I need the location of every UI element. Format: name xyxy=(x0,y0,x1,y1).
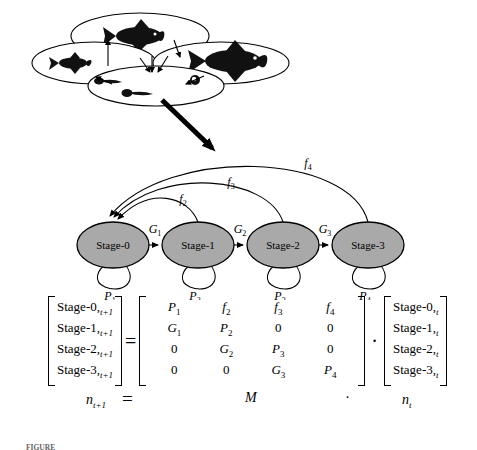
vector-cell: Stage-2,t xyxy=(393,341,438,362)
figure-root: f2 f3 f4 G1 G2 G3 Stage-0 Stage-1 xyxy=(0,0,477,450)
label-matrix-m: M xyxy=(245,390,257,406)
growth-label-g2: G2 xyxy=(234,222,247,238)
equation-row: Stage-0,t+1 Stage-1,t+1 Stage-2,t+1 Stag… xyxy=(0,296,477,386)
fecundity-label-f2: f2 xyxy=(179,192,186,208)
node-label-stage-1: Stage-1 xyxy=(181,239,215,251)
fecundity-label-f4: f4 xyxy=(304,156,311,172)
matrix-cell: G1 xyxy=(148,320,200,341)
matrix-cell: 0 xyxy=(148,341,200,362)
equation-bottom-labels: nt+1 = M · nt xyxy=(0,388,477,416)
node-stage-3[interactable]: Stage-3 xyxy=(332,222,404,268)
vector-cell: Stage-3,t+1 xyxy=(57,362,113,383)
matrix-cell: 0 xyxy=(252,320,304,341)
matrix-cell: P2 xyxy=(200,320,252,341)
subscript: t+1 xyxy=(100,328,113,338)
growth-label-g1: G1 xyxy=(149,222,162,238)
matrix-cell: f2 xyxy=(200,299,252,320)
matrix-row: 0 G2 P3 0 xyxy=(148,341,356,362)
subscript: t xyxy=(436,307,439,317)
matrix-row: G1 P2 0 0 xyxy=(148,320,356,341)
matrix-cell: 0 xyxy=(304,341,356,362)
matrix-cell: P1 xyxy=(148,299,200,320)
fecundity-arc-f4 xyxy=(110,166,368,222)
vector-cell: Stage-3,t xyxy=(393,362,438,383)
vector-cell: Stage-2,t+1 xyxy=(57,341,113,362)
matrix-cell: G3 xyxy=(252,362,304,383)
n-next-vector: Stage-0,t+1 Stage-1,t+1 Stage-2,t+1 Stag… xyxy=(48,296,122,386)
subscript: t xyxy=(436,370,439,380)
matrix-cell: P4 xyxy=(304,362,356,383)
matrix-equation: Stage-0,t+1 Stage-1,t+1 Stage-2,t+1 Stag… xyxy=(0,296,477,450)
matrix-cell: f4 xyxy=(304,299,356,320)
label-equals: = xyxy=(122,388,133,410)
matrix-row: P1 f2 f3 f4 xyxy=(148,299,356,320)
label-n-next: nt+1 xyxy=(86,392,106,410)
figure-caption: FIGURE xyxy=(26,443,466,450)
matrix-cell: 0 xyxy=(304,320,356,341)
node-label-stage-0: Stage-0 xyxy=(96,239,130,251)
equals-sign: = xyxy=(125,330,136,353)
matrix-cell: 0 xyxy=(148,362,200,383)
node-label-stage-2: Stage-2 xyxy=(266,239,300,251)
vector-cell: Stage-1,t+1 xyxy=(57,320,113,341)
vector-cell: Stage-1,t xyxy=(393,320,438,341)
fecundity-label-f3: f3 xyxy=(227,175,234,191)
matrix-cell: 0 xyxy=(200,362,252,383)
label-n-current: nt xyxy=(402,392,412,410)
caption-figure-word: FIGURE xyxy=(26,443,55,450)
matrix-cell: G2 xyxy=(200,341,252,362)
node-stage-0[interactable]: Stage-0 xyxy=(77,222,149,268)
subscript: t+1 xyxy=(100,349,113,359)
node-label-stage-3: Stage-3 xyxy=(351,239,385,251)
vector-cell: Stage-0,t xyxy=(393,299,438,320)
subscript: t xyxy=(436,349,439,359)
label-dot-operator: · xyxy=(345,389,350,406)
transition-matrix: P1 f2 f3 f4 G1 P2 0 0 0 G2 P3 xyxy=(139,296,365,386)
node-stage-2[interactable]: Stage-2 xyxy=(247,222,319,268)
matrix-row: 0 0 G3 P4 xyxy=(148,362,356,383)
matrix-cell: f3 xyxy=(252,299,304,320)
n-current-vector: Stage-0,t Stage-1,t Stage-2,t Stage-3,t xyxy=(384,296,447,386)
subscript: t+1 xyxy=(100,307,113,317)
stage-transition-graph: f2 f3 f4 G1 G2 G3 Stage-0 Stage-1 xyxy=(0,0,477,300)
subscript: t xyxy=(436,328,439,338)
matrix-cell: P3 xyxy=(252,341,304,362)
subscript: t+1 xyxy=(100,370,113,380)
fecundity-arc-f3 xyxy=(114,183,283,222)
vector-cell: Stage-0,t+1 xyxy=(57,299,113,320)
dot-operator: · xyxy=(371,336,378,346)
growth-label-g3: G3 xyxy=(319,222,332,238)
node-stage-1[interactable]: Stage-1 xyxy=(162,222,234,268)
